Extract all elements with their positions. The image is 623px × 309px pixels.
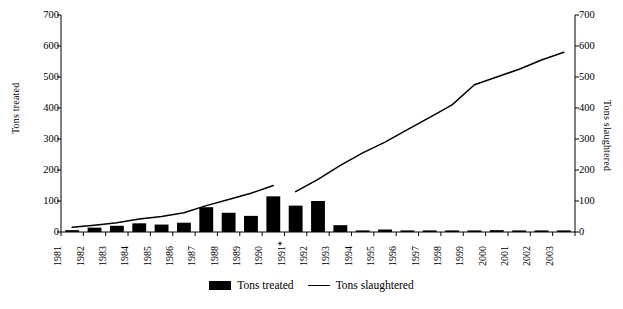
bar [557, 230, 571, 232]
bar [132, 223, 146, 232]
bar [468, 230, 482, 232]
y-axis-left-tick-label: 700 [31, 9, 59, 21]
bar [199, 207, 213, 232]
y-axis-left-tick-label: 0 [31, 226, 59, 238]
bar [445, 230, 459, 232]
y-axis-right-tick-label: 400 [579, 102, 607, 114]
legend-item-tons-treated: Tons treated [209, 279, 293, 291]
y-axis-left-tick-label: 600 [31, 40, 59, 52]
axis-lines [61, 15, 575, 232]
bar [311, 201, 325, 232]
bar [110, 226, 124, 232]
y-axis-left-tick-label: 500 [31, 71, 59, 83]
x-axis-ticks [61, 232, 575, 236]
y-axis-left-tick-label: 100 [31, 195, 59, 207]
y-axis-left-tick-label: 300 [31, 133, 59, 145]
y-axis-right-tick-label: 700 [579, 9, 607, 21]
bar [244, 216, 258, 232]
bar-swatch-icon [209, 281, 231, 290]
line-segment [296, 52, 564, 192]
bar-series-tons-treated [65, 196, 571, 232]
bar [423, 230, 437, 232]
line-swatch-icon [308, 285, 330, 286]
bar [512, 230, 526, 232]
bar [356, 230, 370, 232]
bar [378, 230, 392, 232]
legend-label-tons-treated: Tons treated [237, 279, 293, 291]
y-axis-right-tick-label: 600 [579, 40, 607, 52]
bar [222, 213, 236, 232]
y-axis-right-tick-label: 300 [579, 133, 607, 145]
bar [88, 228, 102, 232]
y-axis-left-tick-label: 400 [31, 102, 59, 114]
bar [490, 230, 504, 232]
bar [289, 206, 303, 232]
bar [535, 230, 549, 232]
y-axis-right-tick-label: 200 [579, 164, 607, 176]
bar [65, 230, 79, 232]
x-axis-tick-label: 2003 [544, 254, 584, 266]
bar [266, 196, 280, 232]
chart-legend: Tons treated Tons slaughtered [0, 279, 623, 291]
chart-container: Tons treated Tons slaughtered 0100200300… [0, 0, 623, 309]
y-axis-right-tick-label: 0 [579, 226, 607, 238]
y-axis-right-tick-label: 500 [579, 71, 607, 83]
line-segment [72, 186, 273, 228]
y-axis-left-tick-label: 200 [31, 164, 59, 176]
legend-label-tons-slaughtered: Tons slaughtered [336, 279, 414, 291]
y-axis-right-tick-label: 100 [579, 195, 607, 207]
bar [400, 230, 414, 232]
bar [333, 225, 347, 232]
bar [155, 225, 169, 232]
legend-item-tons-slaughtered: Tons slaughtered [308, 279, 414, 291]
bar [177, 223, 191, 232]
